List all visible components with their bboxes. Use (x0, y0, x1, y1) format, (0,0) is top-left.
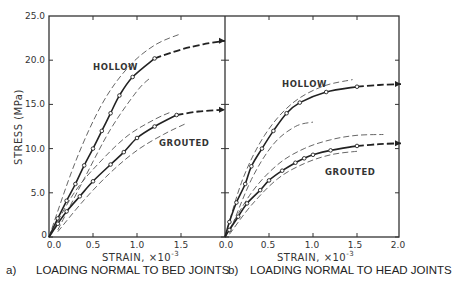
x-axis-label-right: STRAIN, ×10-3 (277, 250, 354, 263)
axis-ticks (49, 16, 399, 237)
caption-a-text: LOADING NORMAL TO BED JOINTS (36, 264, 229, 276)
x-tick-label: 0.0 (219, 240, 234, 250)
x-tick-label: 1.0 (130, 240, 145, 250)
annotation-hollow-right: HOLLOW (282, 79, 327, 89)
y-tick-label: 10.0 (25, 144, 45, 154)
y-tick-label: 25.0 (25, 11, 45, 21)
x-tick-label: 1.0 (305, 240, 320, 250)
caption-b-label: b) (228, 264, 250, 276)
x-tick-label: 0.5 (261, 240, 275, 250)
x-axis-label-left: STRAIN, ×10-3 (102, 250, 179, 263)
caption-b: b)LOADING NORMAL TO HEAD JOINTS (228, 264, 452, 276)
caption-a-label: a) (6, 264, 36, 276)
x-tick-label: 0.5 (86, 240, 100, 250)
x-tick-label: 1.5 (348, 240, 362, 250)
caption-b-text: LOADING NORMAL TO HEAD JOINTS (250, 264, 452, 276)
x-tick-label: 0.0 (47, 240, 62, 250)
y-tick-label: 0 (41, 230, 47, 240)
y-tick-label: 20.0 (25, 55, 45, 65)
y-tick-label: 5.0 (31, 188, 46, 198)
stress-strain-chart: 25.0 20.0 15.0 10.0 5.0 0 0.0 0.5 1.0 1.… (0, 0, 454, 287)
x-tick-label: 1.5 (174, 240, 188, 250)
caption-a: a)LOADING NORMAL TO BED JOINTS (6, 264, 229, 276)
annotation-grouted-right: GROUTED (325, 167, 376, 177)
x-tick-label: 2.0 (391, 240, 406, 250)
plot-frame (49, 16, 399, 237)
y-axis-label: STRESS (MPa) (13, 89, 24, 165)
y-tick-label: 15.0 (25, 99, 45, 109)
annotation-grouted-left: GROUTED (159, 138, 210, 148)
annotation-hollow-left: HOLLOW (93, 62, 138, 72)
